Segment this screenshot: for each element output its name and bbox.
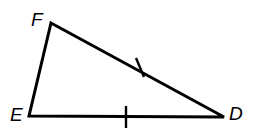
vertex-label-d: D	[229, 104, 243, 123]
vertex-label-e: E	[10, 105, 23, 124]
vertex-label-f: F	[31, 10, 43, 29]
geometry-figure: F E D	[0, 0, 255, 138]
triangle-efd	[29, 23, 224, 117]
congruence-tick-side-fd	[136, 58, 144, 77]
